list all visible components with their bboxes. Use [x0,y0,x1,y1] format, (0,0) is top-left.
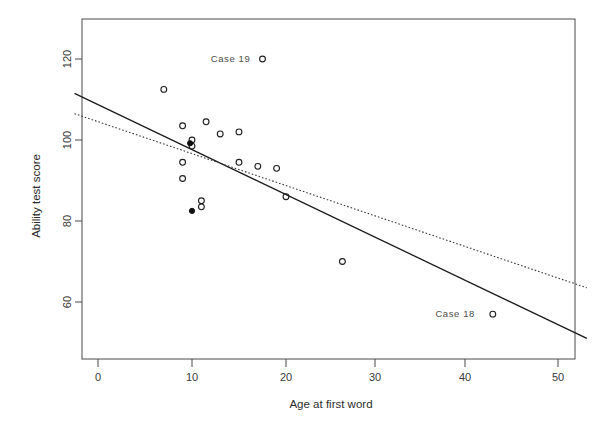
x-tick-label-50: 50 [552,371,564,383]
y-tick-label-60: 60 [61,296,73,308]
x-tick-label-0: 0 [95,371,101,383]
data-point [255,163,261,169]
fit-line-ordinary-least-squares-fit [75,93,587,338]
x-tick-label-20: 20 [280,371,292,383]
x-tick-label-40: 40 [459,371,471,383]
data-point [189,208,194,213]
y-tick-label-120: 120 [61,50,73,68]
data-points-group [161,56,496,317]
data-point [180,176,186,182]
y-axis-tick-labels: 120 100 80 60 [61,50,73,308]
data-point [217,131,223,137]
x-tick-label-30: 30 [369,371,381,383]
data-point [340,259,346,265]
data-point [161,86,167,92]
annotation-label: Case 18 [435,308,475,319]
plot-canvas: 120 100 80 60 Ability test score 0 10 20… [0,0,604,431]
scatter-plot-figure: 120 100 80 60 Ability test score 0 10 20… [0,0,604,431]
data-point [490,311,496,317]
data-point [199,198,205,204]
x-axis-tick-labels: 0 10 20 30 40 50 [95,371,564,383]
data-point [260,56,266,62]
data-point [274,165,280,171]
annotation-label: Case 19 [211,53,251,64]
data-point [199,204,205,210]
y-tick-label-100: 100 [61,131,73,149]
x-axis-ticks [98,359,558,367]
data-point [236,129,242,135]
data-point [203,119,209,125]
x-axis-title: Age at first word [289,398,372,410]
y-tick-label-80: 80 [61,215,73,227]
y-axis-title: Ability test score [30,154,42,238]
plot-frame [82,19,575,359]
data-point [180,123,186,129]
data-point [188,141,193,146]
data-point [180,159,186,165]
annotations-group: Case 19Case 18 [211,53,475,319]
fit-line-robust-fit [75,114,587,288]
data-point [236,159,242,165]
x-tick-label-10: 10 [186,371,198,383]
fit-lines-group [75,93,587,338]
